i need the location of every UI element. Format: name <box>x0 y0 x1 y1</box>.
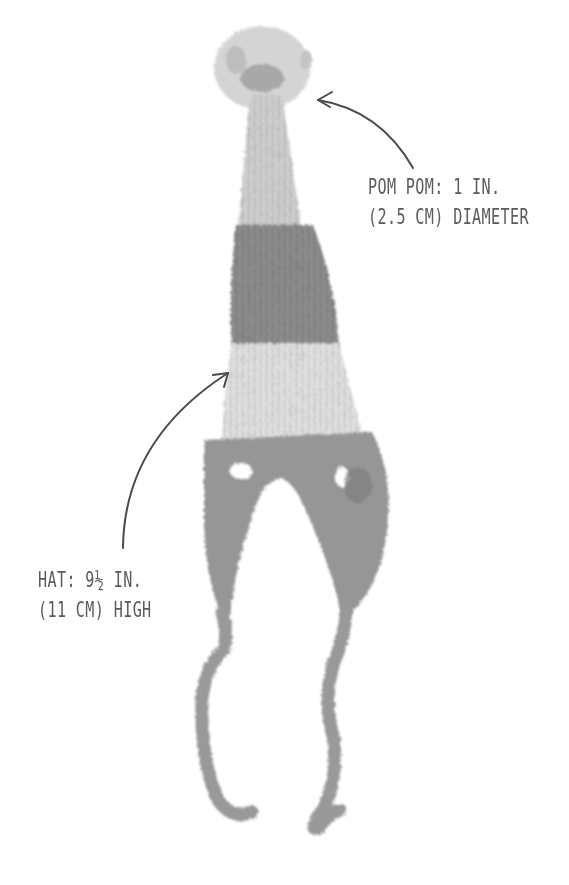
hat-dark-stripe <box>231 225 339 348</box>
hat-ties <box>202 612 346 829</box>
hat-light-stripe <box>222 343 364 440</box>
hat-height-label: HAT: 9½ IN. (11 CM) HIGH <box>38 565 152 625</box>
hat-earflaps <box>204 432 389 618</box>
hat-height-line2: (11 CM) HIGH <box>38 595 152 625</box>
pom-pom-size-label: POM POM: 1 IN. (2.5 CM) DIAMETER <box>368 172 529 232</box>
pom-pom-size-line2: (2.5 CM) DIAMETER <box>368 202 529 232</box>
pom-pom-arrow <box>318 92 413 168</box>
hat-illustration <box>0 0 569 885</box>
annotated-hat-figure: POM POM: 1 IN. (2.5 CM) DIAMETER HAT: 9½… <box>0 0 569 885</box>
pom-pom-size-line1: POM POM: 1 IN. <box>368 172 529 202</box>
hat-tip-stripe <box>238 95 302 232</box>
hat-height-line1: HAT: 9½ IN. <box>38 565 152 595</box>
